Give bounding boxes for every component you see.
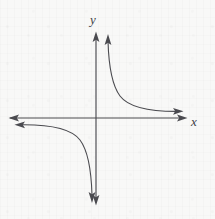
axes-group bbox=[9, 32, 188, 206]
hyperbola-upper-right-path bbox=[108, 41, 178, 111]
graph-canvas: y x bbox=[0, 0, 215, 219]
hyperbola-lower-left-path bbox=[22, 125, 92, 195]
x-axis-label: x bbox=[190, 114, 197, 129]
curve-branch-quadrant-one bbox=[105, 34, 184, 115]
y-axis-label: y bbox=[88, 12, 96, 27]
curve-branch-quadrant-three bbox=[15, 121, 96, 203]
hyperbola-figure: y x bbox=[0, 0, 215, 219]
